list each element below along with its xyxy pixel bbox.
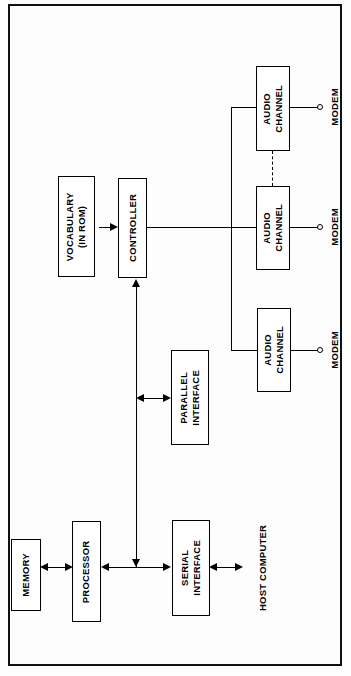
label-modem-middle: MODEM bbox=[324, 199, 346, 255]
arrowhead-to-serial bbox=[209, 563, 217, 571]
block-memory[interactable]: MEMORY bbox=[11, 539, 41, 611]
block-processor[interactable]: PROCESSOR bbox=[72, 521, 101, 622]
audio-bus-branch-top bbox=[231, 107, 257, 108]
block-serial-interface[interactable]: SERIAL INTERFACE bbox=[172, 520, 210, 616]
block-vocabulary-rom[interactable]: VOCABULARY (IN ROM) bbox=[58, 176, 95, 277]
audio-bus-branch-bottom bbox=[231, 350, 257, 351]
ellipsis-dashed-connector bbox=[272, 151, 273, 186]
arrowhead-to-bus-from-parallel bbox=[136, 394, 144, 402]
audio-bus-horizontal bbox=[147, 227, 256, 228]
label-modem-top: MODEM bbox=[324, 79, 346, 135]
block-audio-channel-middle[interactable]: AUDIO CHANNEL bbox=[256, 186, 290, 270]
block-parallel-interface-label: PARALLEL INTERFACE bbox=[178, 370, 202, 426]
label-modem-middle-text: MODEM bbox=[329, 208, 341, 245]
arrowhead-to-controller bbox=[132, 279, 140, 287]
modem-port-top[interactable] bbox=[317, 104, 323, 110]
block-vocabulary-rom-label: VOCABULARY (IN ROM) bbox=[65, 192, 89, 261]
arrowhead-to-processor-right bbox=[101, 563, 109, 571]
arrowhead-to-memory bbox=[40, 563, 48, 571]
controller-bus-vertical bbox=[136, 286, 137, 567]
block-audio-channel-middle-label: AUDIO CHANNEL bbox=[261, 204, 285, 252]
system-bus-horizontal bbox=[106, 567, 166, 568]
connector-audio-middle-modem bbox=[290, 227, 320, 228]
label-host-computer: HOST COMPUTER bbox=[246, 535, 280, 601]
block-memory-label: MEMORY bbox=[20, 553, 32, 597]
audio-bus-vertical bbox=[231, 107, 232, 351]
arrowhead-to-controller-from-vocabulary bbox=[110, 223, 118, 231]
connector-audio-top-modem bbox=[290, 107, 320, 108]
block-controller[interactable]: CONTROLLER bbox=[118, 178, 147, 278]
diagram-canvas: MEMORY PROCESSOR SERIAL INTERFACE HOST C… bbox=[0, 0, 351, 676]
modem-port-bottom[interactable] bbox=[317, 347, 323, 353]
block-controller-label: CONTROLLER bbox=[127, 194, 139, 262]
arrowhead-to-host-computer bbox=[235, 563, 243, 571]
label-modem-bottom: MODEM bbox=[324, 322, 346, 378]
label-modem-top-text: MODEM bbox=[329, 88, 341, 125]
block-audio-channel-bottom-label: AUDIO CHANNEL bbox=[262, 326, 286, 374]
label-modem-bottom-text: MODEM bbox=[329, 331, 341, 368]
modem-port-middle[interactable] bbox=[317, 224, 323, 230]
block-processor-label: PROCESSOR bbox=[81, 540, 93, 603]
block-serial-interface-label: SERIAL INTERFACE bbox=[179, 540, 203, 596]
label-host-computer-text: HOST COMPUTER bbox=[257, 525, 269, 611]
block-audio-channel-bottom[interactable]: AUDIO CHANNEL bbox=[257, 308, 291, 392]
arrowhead-to-parallel-interface bbox=[163, 394, 171, 402]
connector-audio-bottom-modem bbox=[291, 350, 320, 351]
block-parallel-interface[interactable]: PARALLEL INTERFACE bbox=[171, 350, 209, 445]
block-audio-channel-top[interactable]: AUDIO CHANNEL bbox=[256, 66, 290, 151]
arrowhead-to-serial-interface bbox=[163, 563, 171, 571]
block-audio-channel-top-label: AUDIO CHANNEL bbox=[261, 85, 285, 133]
